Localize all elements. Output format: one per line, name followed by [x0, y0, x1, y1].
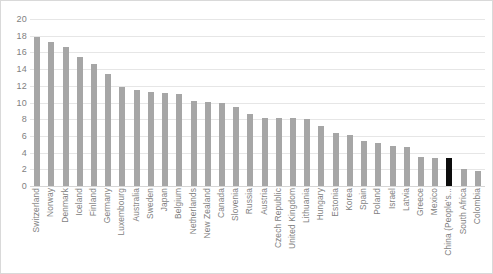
bar — [361, 141, 367, 186]
x-axis-tick-label: Iceland — [75, 188, 83, 216]
bar — [347, 135, 353, 186]
y-axis-tick-label: 18 — [1, 31, 27, 40]
x-axis-tick-label: Slovenia — [231, 188, 239, 221]
y-axis-tick-label: 2 — [1, 165, 27, 174]
x-axis-tick-label: Canada — [217, 188, 225, 218]
bar — [162, 93, 168, 186]
bar — [262, 118, 268, 186]
x-axis-tick-label: Poland — [373, 188, 381, 215]
x-axis-tick-label: Korea — [345, 188, 353, 211]
x-axis-tick-label: Sweden — [146, 188, 154, 219]
x-axis-tick-label: Hungary — [316, 188, 324, 220]
x-axis-tick-label: Greece — [416, 188, 424, 216]
y-axis-tick-label: 8 — [1, 115, 27, 124]
bar — [233, 107, 239, 186]
x-axis: SwitzerlandNorwayDenmarkIcelandFinlandGe… — [30, 188, 485, 272]
x-axis-tick-label: Austria — [260, 188, 268, 215]
bar — [176, 94, 182, 186]
x-axis-tick-label: Estonia — [331, 188, 339, 217]
bars-layer — [30, 19, 485, 186]
bar — [191, 101, 197, 186]
bar — [333, 133, 339, 186]
bar — [418, 157, 424, 186]
bar — [48, 42, 54, 186]
bar — [390, 146, 396, 186]
gridline — [30, 186, 485, 187]
x-axis-tick-label: Spain — [359, 188, 367, 210]
x-axis-tick-label: Lithuania — [302, 188, 310, 223]
y-axis-tick-label: 12 — [1, 81, 27, 90]
x-axis-tick-label: Denmark — [61, 188, 69, 223]
x-axis-tick-label: Czech Republic — [274, 188, 282, 248]
x-axis-tick-label: Russia — [245, 188, 253, 214]
x-axis-tick-label: Belgium — [174, 188, 182, 219]
x-axis-tick-label: Israel — [388, 188, 396, 209]
x-axis-tick-label: Netherlands — [189, 188, 197, 234]
bar-chart-figure: 20181614121086420 SwitzerlandNorwayDenma… — [0, 0, 493, 274]
bar — [375, 143, 381, 186]
bar — [404, 147, 410, 186]
bar — [219, 103, 225, 187]
x-axis-tick-label: Mexico — [430, 188, 438, 215]
y-axis-tick-label: 16 — [1, 48, 27, 57]
x-axis-tick-label: South Africa — [459, 188, 467, 234]
x-axis-tick-label: Norway — [46, 188, 54, 217]
x-axis-tick-label: New Zealand — [203, 188, 211, 238]
bar — [91, 64, 97, 186]
bar — [119, 87, 125, 186]
bar — [461, 169, 467, 186]
x-axis-tick-label: Luxembourg — [117, 188, 125, 236]
x-axis-tick-label: Finland — [89, 188, 97, 216]
bar — [304, 119, 310, 186]
x-axis-tick-label: United Kingdom — [288, 188, 296, 249]
bar — [134, 90, 140, 186]
x-axis-tick-label: China (People's... — [444, 188, 452, 256]
y-axis-tick-label: 10 — [1, 98, 27, 107]
bar — [432, 158, 438, 186]
bar — [247, 114, 253, 186]
x-axis-tick-label: Latvia — [402, 188, 410, 211]
y-axis-tick-label: 20 — [1, 15, 27, 24]
bar — [318, 126, 324, 186]
bar — [34, 37, 40, 186]
bar — [446, 158, 452, 186]
x-axis-tick-label: Germany — [103, 188, 111, 223]
y-axis-tick-label: 6 — [1, 131, 27, 140]
bar — [475, 171, 481, 186]
x-axis-tick-label: Switzerland — [32, 188, 40, 232]
y-axis-tick-label: 14 — [1, 65, 27, 74]
x-axis-tick-label: Japan — [160, 188, 168, 211]
bar — [205, 102, 211, 186]
bar — [290, 118, 296, 186]
bar — [77, 57, 83, 186]
y-axis-tick-label: 4 — [1, 148, 27, 157]
x-axis-tick-label: Australia — [132, 188, 140, 221]
bar — [148, 92, 154, 186]
x-axis-tick-label: Colombia — [473, 188, 481, 224]
bar — [63, 47, 69, 186]
y-axis: 20181614121086420 — [1, 19, 27, 186]
bar — [276, 118, 282, 186]
y-axis-tick-label: 0 — [1, 182, 27, 191]
bar — [105, 74, 111, 186]
